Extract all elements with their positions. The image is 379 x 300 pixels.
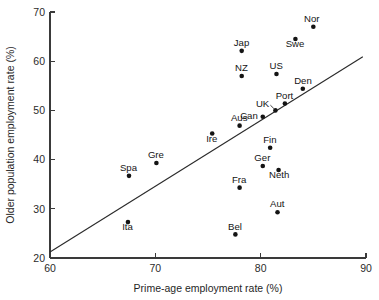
point-label-bel: Bel [228,221,242,232]
data-point-nz: NZ [235,62,248,78]
data-point-uk: UK [256,98,278,113]
point-marker-fin [268,145,273,150]
point-marker-can [260,114,265,119]
uk-leader-line [270,105,273,108]
y-tick-label-50: 50 [33,104,45,116]
point-marker-spa [127,174,132,179]
point-label-fra: Fra [232,174,247,185]
y-tick-label-70: 70 [33,6,45,18]
data-point-bel: Bel [228,221,242,237]
data-point-fin: Fin [263,134,276,150]
y-tick-label-60: 60 [33,55,45,67]
point-label-fin: Fin [263,134,276,145]
point-label-us: US [270,60,283,71]
point-label-aus: Aus [231,112,248,123]
data-point-ire: Ire [206,131,217,144]
y-tick-label-40: 40 [33,153,45,165]
point-marker-nor [311,24,316,29]
point-marker-uk [273,108,278,113]
point-label-nz: NZ [235,62,248,73]
point-label-neth: Neth [269,169,289,180]
data-point-swe: Swe [286,37,305,49]
data-point-fra: Fra [232,174,247,190]
data-point-gre: Gre [148,149,164,165]
data-point-neth: Neth [269,168,289,181]
point-marker-nz [239,74,244,79]
point-label-port: Port [276,90,294,101]
point-label-jap: Jap [234,37,249,48]
point-marker-ger [260,164,265,169]
data-point-us: US [270,60,283,76]
data-point-den: Den [294,75,312,91]
plot-canvas: 203040506070 60708090 NorSweJapUSNZDenPo… [0,0,379,300]
data-point-ita: Ita [122,220,133,233]
regression-trend-line [50,57,363,252]
point-marker-den [301,86,306,91]
data-point-aut: Aut [270,198,285,214]
y-tick-label-30: 30 [33,203,45,215]
y-axis-title: Older population employment rate (%) [4,46,16,223]
point-label-den: Den [294,75,312,86]
x-tick-label-60: 60 [44,262,56,274]
point-marker-gre [154,161,159,166]
y-axis-ticks: 203040506070 [33,6,55,264]
data-point-ger: Ger [254,152,271,168]
point-label-spa: Spa [120,162,138,173]
data-points-group: NorSweJapUSNZDenPortUKCanAusIreFinGreGer… [120,13,320,237]
data-point-nor: Nor [304,13,320,29]
x-tick-label-80: 80 [255,262,267,274]
x-axis-title: Prime-age employment rate (%) [134,282,283,294]
point-label-ire: Ire [206,133,217,144]
x-axis-ticks: 60708090 [44,253,372,274]
point-label-nor: Nor [304,13,320,24]
data-point-port: Port [276,90,294,106]
point-marker-aus [237,123,242,128]
point-marker-aut [275,210,280,215]
trend-line-group [50,57,363,252]
scatter-chart-figure: 203040506070 60708090 NorSweJapUSNZDenPo… [0,0,379,300]
point-label-uk: UK [256,98,270,109]
point-marker-jap [239,49,244,54]
point-label-swe: Swe [286,38,305,49]
data-point-jap: Jap [234,37,249,53]
data-point-spa: Spa [120,162,138,178]
point-label-gre: Gre [148,149,164,160]
point-label-aut: Aut [270,198,285,209]
x-tick-label-90: 90 [360,262,372,274]
point-marker-fra [237,185,242,190]
data-point-aus: Aus [231,112,248,128]
point-marker-port [283,101,288,106]
point-marker-us [274,72,279,77]
point-label-ger: Ger [254,152,271,163]
x-tick-label-70: 70 [149,262,161,274]
point-label-ita: Ita [122,221,133,232]
point-marker-bel [233,232,238,237]
